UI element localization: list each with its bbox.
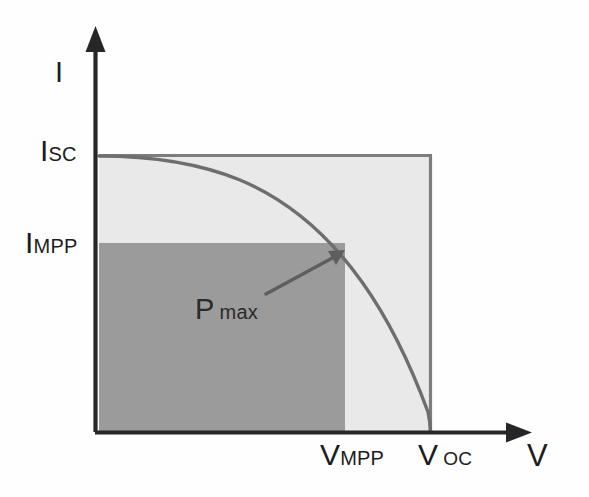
- impp-label: IMPP: [25, 228, 78, 258]
- x-axis-label: V: [527, 440, 548, 471]
- iv-curve-svg: [0, 0, 589, 497]
- pmax-label: Pmax: [195, 295, 258, 324]
- y-axis-label: I: [55, 58, 63, 87]
- iv-curve-figure: I V ISC IMPP Pmax VMPP VOC: [0, 0, 589, 497]
- y-axis-arrowhead-icon: [86, 26, 106, 52]
- voc-label: VOC: [418, 440, 472, 470]
- vmpp-label: VMPP: [320, 440, 384, 470]
- isc-label: ISC: [40, 136, 77, 166]
